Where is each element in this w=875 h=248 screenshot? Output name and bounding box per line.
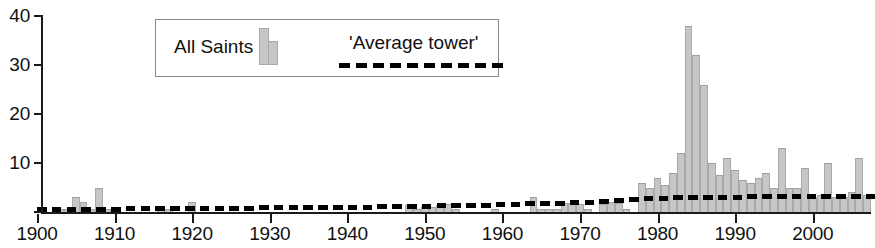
x-tick-label-1940: 1940 — [327, 224, 368, 244]
x-tick-label-1970: 1970 — [559, 224, 600, 244]
average-line-dash — [570, 200, 580, 205]
y-tick-20 — [34, 113, 43, 115]
average-line-dash — [215, 206, 225, 211]
average-line-dash — [451, 203, 461, 208]
y-tick-0 — [34, 211, 43, 213]
average-line-dash — [673, 195, 683, 200]
average-line-dash — [688, 195, 698, 200]
x-tick-1910 — [115, 214, 117, 223]
average-line-dash — [585, 200, 595, 205]
x-tick-label-1980: 1980 — [637, 224, 678, 244]
average-line-dash — [363, 205, 373, 210]
y-tick-10 — [34, 162, 43, 164]
dashed-line-icon — [339, 63, 491, 68]
average-line-dash — [229, 206, 239, 211]
x-tick-label-1910: 1910 — [94, 224, 135, 244]
average-line-dash — [111, 207, 121, 212]
average-line-dash — [540, 201, 550, 206]
average-line-dash — [392, 204, 402, 209]
average-line-dash — [614, 198, 624, 203]
x-axis-line — [41, 212, 871, 214]
average-line-dash — [777, 194, 787, 199]
average-line-dash — [821, 194, 831, 199]
y-tick-label-30: 30 — [0, 55, 30, 74]
x-tick-label-2000: 2000 — [792, 224, 833, 244]
y-tick-40 — [34, 15, 43, 17]
x-tick-1930 — [270, 214, 272, 223]
average-line-dash — [851, 194, 861, 199]
x-tick-label-1920: 1920 — [172, 224, 213, 244]
legend-label-average-tower: 'Average tower' — [349, 33, 478, 53]
x-tick-label-1950: 1950 — [404, 224, 445, 244]
average-line-dash — [511, 202, 521, 207]
average-line-dash — [718, 195, 728, 200]
x-tick-label-1990: 1990 — [715, 224, 756, 244]
bar-swatch-icon — [259, 28, 277, 65]
average-line-dash — [747, 194, 757, 199]
x-tick-label-1960: 1960 — [482, 224, 523, 244]
average-line-dash — [274, 205, 284, 210]
average-line-dash — [437, 203, 447, 208]
x-tick-1950 — [425, 214, 427, 223]
x-tick-1970 — [580, 214, 582, 223]
average-line-dash — [807, 194, 817, 199]
average-line-dash — [289, 205, 299, 210]
average-line-dash — [644, 196, 654, 201]
average-line-dash — [792, 194, 802, 199]
average-line-dash — [466, 203, 476, 208]
average-line-dash — [200, 206, 210, 211]
average-line-dash — [762, 194, 772, 199]
average-line-dash — [155, 206, 165, 211]
x-tick-1960 — [502, 214, 504, 223]
x-tick-1920 — [192, 214, 194, 223]
average-line-dash — [318, 205, 328, 210]
y-tick-label-40: 40 — [0, 6, 30, 25]
average-line-dash — [703, 195, 713, 200]
average-line-dash — [659, 196, 669, 201]
average-line-dash — [555, 201, 565, 206]
legend: All Saints 'Average tower' — [155, 19, 499, 77]
average-line-dash — [422, 204, 432, 209]
average-line-dash — [141, 206, 151, 211]
average-line-dash — [525, 201, 535, 206]
x-tick-1940 — [347, 214, 349, 223]
average-line-dash — [126, 206, 136, 211]
y-tick-30 — [34, 64, 43, 66]
x-tick-1990 — [735, 214, 737, 223]
average-line-dash — [481, 203, 491, 208]
average-line-dash — [866, 194, 875, 199]
average-line-dash — [259, 205, 269, 210]
average-line-dash — [629, 197, 639, 202]
y-tick-label-10: 10 — [0, 153, 30, 172]
average-line-dash — [244, 206, 254, 211]
y-axis-line — [41, 16, 43, 214]
average-line-dash — [333, 205, 343, 210]
x-tick-label-1930: 1930 — [249, 224, 290, 244]
x-tick-1980 — [658, 214, 660, 223]
average-line-dash — [496, 202, 506, 207]
average-line-dash — [599, 199, 609, 204]
average-line-dash — [407, 204, 417, 209]
x-tick-label-1900: 1900 — [16, 224, 57, 244]
average-line-dash — [836, 194, 846, 199]
legend-label-all-saints: All Saints — [174, 37, 253, 57]
x-tick-1900 — [37, 214, 39, 223]
y-tick-label-20: 20 — [0, 104, 30, 123]
average-line-dash — [377, 204, 387, 209]
average-line-dash — [185, 206, 195, 211]
average-line-dash — [170, 206, 180, 211]
average-line-dash — [733, 195, 743, 200]
average-line-dash — [303, 205, 313, 210]
x-tick-2000 — [813, 214, 815, 223]
average-line-dash — [348, 205, 358, 210]
